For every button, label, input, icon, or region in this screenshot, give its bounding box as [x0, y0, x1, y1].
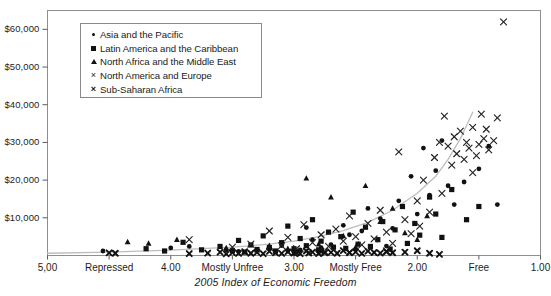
scatter-plot-figure: $10,000$20,000$30,000$40,000$50,000$60,0…: [0, 0, 551, 296]
y-tick-label: $40,000: [4, 99, 39, 110]
legend-box: Asia and the Pacific Latin America and t…: [80, 23, 262, 98]
legend-item-north-america-europe: × North America and Europe: [87, 69, 256, 83]
x-tick-label: 1.00: [481, 262, 551, 273]
y-tick-marks: [43, 29, 48, 217]
legend-label: Sub-Saharan Africa: [100, 84, 182, 95]
legend-label: Asia and the Pacific: [100, 29, 183, 40]
circle-marker-icon: [87, 33, 100, 36]
legend-label: North America and Europe: [100, 70, 212, 81]
x-axis-title: 2005 Index of Economic Freedom: [0, 276, 551, 288]
x-bold-marker-icon: ×: [87, 85, 100, 94]
y-tick-label: $60,000: [4, 23, 39, 34]
square-marker-icon: [87, 46, 100, 51]
legend-item-sub-saharan-africa: × Sub-Saharan Africa: [87, 82, 256, 96]
y-tick-label: $20,000: [4, 174, 39, 185]
y-tick-label: $10,000: [4, 212, 39, 223]
y-tick-label: $30,000: [4, 136, 39, 147]
legend-item-north-africa: North Africa and the Middle East: [87, 55, 256, 69]
legend-label: North Africa and the Middle East: [100, 56, 236, 67]
x-tick-marks: [48, 256, 541, 260]
legend-item-latin-america: Latin America and the Caribbean: [87, 42, 256, 56]
legend-item-asia: Asia and the Pacific: [87, 28, 256, 42]
legend-label: Latin America and the Caribbean: [100, 43, 238, 54]
triangle-marker-icon: [87, 59, 100, 64]
x-thin-marker-icon: ×: [87, 71, 100, 80]
y-tick-label: $50,000: [4, 61, 39, 72]
